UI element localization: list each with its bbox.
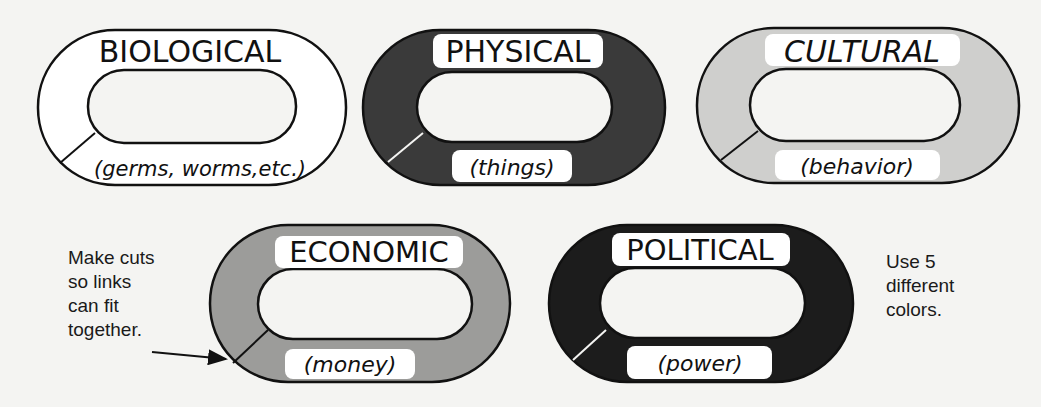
link-political: POLITICAL (power) (549, 225, 853, 382)
link-subtitle: (money) (304, 352, 397, 377)
link-economic: ECONOMIC (money) (210, 225, 510, 382)
chain-links-diagram: BIOLOGICAL (germs, worms,etc.) PHYSICAL … (0, 0, 1041, 407)
note-make-cuts: Make cuts so links can fit together. (68, 246, 155, 342)
link-title: PHYSICAL (445, 34, 590, 69)
arrow-to-cut (152, 352, 226, 359)
link-subtitle: (behavior) (800, 154, 914, 179)
link-biological: BIOLOGICAL (germs, worms,etc.) (38, 30, 346, 185)
link-title: CULTURAL (784, 34, 940, 69)
link-title: ECONOMIC (289, 235, 449, 269)
link-subtitle: (things) (469, 155, 554, 180)
link-hole (600, 268, 805, 338)
note-use-colors: Use 5 different colors. (886, 250, 954, 322)
link-title: BIOLOGICAL (99, 34, 282, 69)
link-subtitle: (germs, worms,etc.) (94, 157, 306, 181)
link-hole (258, 269, 472, 339)
link-hole (417, 72, 612, 142)
link-cultural: CULTURAL (behavior) (697, 28, 1019, 183)
link-title: POLITICAL (626, 233, 774, 267)
link-hole (750, 69, 960, 141)
link-subtitle: (power) (657, 351, 742, 376)
link-hole (88, 70, 296, 143)
link-physical: PHYSICAL (things) (363, 30, 665, 185)
